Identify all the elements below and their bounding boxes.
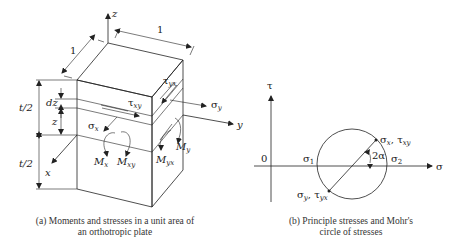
caption-b-line2: circle of stresses (320, 227, 383, 237)
point-upper (375, 139, 378, 142)
sigma-x-arrow (104, 117, 117, 131)
lower-half-thickness-label: t/2 (19, 158, 33, 169)
y-axis-arrow (183, 115, 233, 124)
upper-half-thickness-label: t/2 (19, 102, 33, 113)
figure-canvas: z y x 1 1 t/2 t/2 dz z (0, 0, 463, 237)
myx-label: Myx (155, 154, 174, 167)
tau-xy-line (101, 105, 128, 111)
layer-line (152, 88, 183, 125)
angle-label: 2α (372, 150, 385, 161)
dz-label: dz (46, 97, 58, 108)
caption-b-line1: (b) Principle stresses and Mohr's (289, 216, 413, 227)
sigma-axis-label: σ (436, 161, 443, 172)
mxy-label: Mxy (116, 156, 136, 169)
caption-a-line1: (a) Moments and stresses in a unit area … (36, 216, 195, 227)
mohr-circle-diagram: τ σ 0 2α σ1 σ2 σx, τxy σy, τyx (b) Princ… (254, 80, 443, 237)
mx-label: Mx (93, 156, 108, 169)
myx-axis-line (160, 124, 172, 140)
point-lower (328, 190, 331, 193)
origin-label: 0 (261, 153, 267, 164)
depth-dimension-label: 1 (70, 45, 76, 56)
tau-axis-label: τ (267, 80, 273, 91)
sigma2-label: σ2 (391, 153, 402, 166)
y-axis-label: y (236, 119, 243, 130)
z-axis-label: z (111, 8, 118, 19)
mxy-curl (121, 132, 130, 152)
dim-tick (64, 76, 72, 78)
tau-yx-label: τyx (163, 75, 177, 88)
dim-tick (98, 40, 104, 42)
sigma1-label: σ1 (303, 153, 314, 166)
point-upper-label: σx, τxy (380, 134, 412, 147)
z-height-label: z (51, 116, 58, 127)
dim-tick (115, 29, 119, 38)
width-dimension-label: 1 (157, 24, 163, 35)
dim-tick (190, 46, 194, 55)
tau-xy-label: τxy (128, 97, 142, 110)
sigma-y-arrow (170, 100, 206, 106)
width-dimension (119, 31, 191, 47)
top-face (77, 43, 183, 97)
caption-a-line2: an orthotropic plate (78, 227, 152, 237)
plate-element-diagram: z y x 1 1 t/2 t/2 dz z (19, 8, 243, 237)
mid-plane-line (77, 135, 152, 152)
sigma-y-label: σy (211, 99, 223, 112)
sigma-x-label: σx (88, 120, 99, 133)
point-lower-label: σy, τyx (297, 189, 328, 202)
angle-arrowhead (367, 164, 373, 169)
x-axis-arrow (52, 135, 77, 163)
x-axis-label: x (45, 167, 51, 178)
mx-arrowhead (106, 151, 107, 156)
